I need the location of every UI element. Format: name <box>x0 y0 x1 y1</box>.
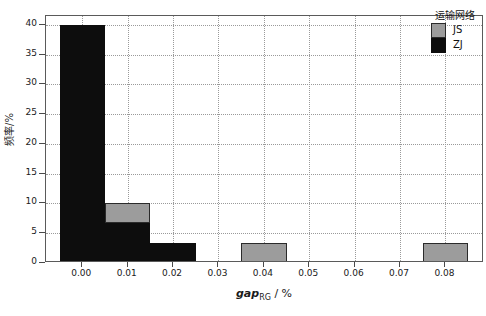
legend: 运输网络 JS ZJ <box>402 8 480 56</box>
gridline-vertical <box>218 16 219 261</box>
x-axis-label: gapRG / % <box>45 287 483 302</box>
y-tick-label: 15 <box>3 168 37 177</box>
bar-zj <box>60 25 105 262</box>
legend-label-zj: ZJ <box>453 40 463 50</box>
x-tick-mark <box>263 262 264 267</box>
y-tick-label: 40 <box>3 19 37 28</box>
x-axis-label-italic: gap <box>236 287 259 300</box>
y-tick-mark <box>39 262 45 263</box>
x-tick-mark <box>354 262 355 267</box>
x-tick-label: 0.06 <box>334 269 374 278</box>
y-tick-label: 0 <box>3 257 37 266</box>
x-tick-mark <box>444 262 445 267</box>
x-axis-label-subscript: RG <box>259 293 271 302</box>
legend-swatch-zj-icon <box>431 38 446 53</box>
histogram-chart: 0510152025303540 0.000.010.020.030.040.0… <box>0 0 486 316</box>
legend-label-js: JS <box>453 25 462 35</box>
x-tick-label: 0.05 <box>288 269 328 278</box>
x-tick-label: 0.01 <box>107 269 147 278</box>
y-tick-mark <box>39 143 45 144</box>
y-tick-label: 5 <box>3 227 37 236</box>
bar-js <box>423 243 468 262</box>
x-axis-label-suffix: / % <box>271 287 292 300</box>
y-tick-mark <box>39 232 45 233</box>
y-tick-label: 35 <box>3 49 37 58</box>
y-tick-mark <box>39 113 45 114</box>
legend-title: 运输网络 <box>405 10 477 22</box>
x-tick-mark <box>81 262 82 267</box>
gridline-horizontal <box>46 114 482 115</box>
y-tick-mark <box>39 83 45 84</box>
x-tick-mark <box>308 262 309 267</box>
x-tick-label: 0.04 <box>243 269 283 278</box>
gridline-horizontal <box>46 84 482 85</box>
y-tick-label: 10 <box>3 197 37 206</box>
x-tick-mark <box>217 262 218 267</box>
x-tick-label: 0.08 <box>424 269 464 278</box>
y-tick-mark <box>39 24 45 25</box>
x-tick-label: 0.07 <box>379 269 419 278</box>
legend-item-js[interactable]: JS <box>405 23 477 38</box>
y-tick-mark <box>39 173 45 174</box>
bar-js <box>241 243 286 262</box>
x-tick-mark <box>127 262 128 267</box>
y-tick-mark <box>39 202 45 203</box>
legend-swatch-js-icon <box>431 23 446 38</box>
y-axis-label: 频率/% <box>1 95 16 165</box>
bar-js <box>105 203 150 223</box>
x-tick-label: 0.03 <box>197 269 237 278</box>
y-tick-label: 30 <box>3 78 37 87</box>
gridline-vertical <box>264 16 265 261</box>
gridline-vertical <box>400 16 401 261</box>
bar-zj <box>150 243 195 262</box>
x-tick-label: 0.00 <box>61 269 101 278</box>
legend-item-zj[interactable]: ZJ <box>405 38 477 53</box>
y-tick-mark <box>39 54 45 55</box>
x-tick-mark <box>399 262 400 267</box>
gridline-horizontal <box>46 174 482 175</box>
gridline-vertical <box>309 16 310 261</box>
gridline-vertical <box>355 16 356 261</box>
x-tick-label: 0.02 <box>152 269 192 278</box>
gridline-vertical <box>173 16 174 261</box>
gridline-horizontal <box>46 144 482 145</box>
bar-zj <box>105 223 150 262</box>
x-tick-mark <box>172 262 173 267</box>
